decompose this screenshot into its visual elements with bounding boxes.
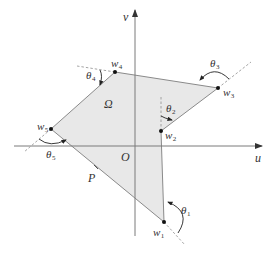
vertex-label-w3: w3 [223,87,234,100]
vertex-w1 [162,220,166,224]
extension-w3 [218,62,251,88]
vertex-w5 [49,127,53,131]
vertex-label-w1: w1 [153,227,164,240]
angle-label-theta4: θ4 [86,70,95,83]
origin-label: O [121,151,130,163]
angle-label-theta5: θ5 [46,149,55,162]
angle-label-theta1: θ1 [181,205,190,218]
angle-arc-theta3 [200,72,229,80]
vertex-label-w4: w4 [111,58,122,71]
extension-w4 [77,66,115,72]
angle-arc-theta5 [39,139,66,144]
v-axis-label: v [123,11,128,23]
vertex-w3 [216,86,220,90]
angle-label-theta2: θ2 [166,103,175,116]
vertex-w2 [159,129,163,133]
region-omega-label: Ω [104,98,113,110]
polygon-mapping-diagram: v u O Ω P w1 w2 w3 w4 w5 θ1 θ2 θ3 θ4 θ5 [0,0,277,256]
point-p-label: P [88,172,95,184]
angle-label-theta3: θ3 [210,58,219,71]
vertex-label-w5: w5 [37,121,48,134]
u-axis-label: u [255,152,261,164]
vertex-label-w2: w2 [165,130,176,143]
angle-arc-theta4 [100,70,102,85]
